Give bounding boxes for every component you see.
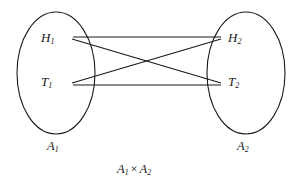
diagram-canvas xyxy=(0,0,296,187)
set-ellipses xyxy=(17,12,285,134)
node-label-h1: H1 xyxy=(41,31,54,44)
set-label-a2-sub: 2 xyxy=(245,145,249,154)
set-label-a1: A1 xyxy=(47,140,59,153)
cross-product-operator-icon: × xyxy=(129,162,140,176)
node-label-t2-sub: 2 xyxy=(235,81,239,90)
cartesian-product-diagram: H1 T1 H2 T2 A1 A2 A1×A2 xyxy=(0,0,296,187)
set-label-a1-sub: 1 xyxy=(55,145,59,154)
node-label-t1: T1 xyxy=(41,75,52,88)
set-ellipse-a1 xyxy=(17,12,95,134)
set-ellipse-a2 xyxy=(207,12,285,134)
node-label-h2-base: H xyxy=(228,30,237,45)
node-label-t2: T2 xyxy=(228,75,239,88)
node-label-t1-sub: 1 xyxy=(48,81,52,90)
caption-left-base: A xyxy=(117,162,125,176)
node-label-h1-sub: 1 xyxy=(50,37,54,46)
caption-right-sub: 2 xyxy=(147,168,151,177)
node-label-h2: H2 xyxy=(228,31,241,44)
set-label-a2: A2 xyxy=(237,140,249,153)
product-caption: A1×A2 xyxy=(117,163,151,176)
node-label-h1-base: H xyxy=(41,30,50,45)
set-label-a2-base: A xyxy=(237,139,245,153)
caption-left-sub: 1 xyxy=(125,168,129,177)
node-label-h2-sub: 2 xyxy=(237,37,241,46)
set-label-a1-base: A xyxy=(47,139,55,153)
